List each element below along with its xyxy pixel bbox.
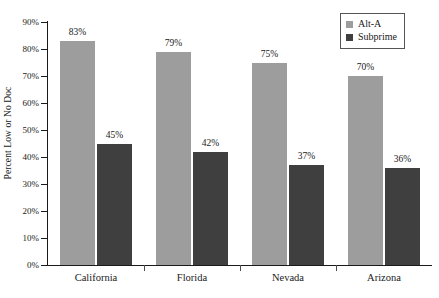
y-axis-tick-mark bbox=[41, 238, 48, 239]
bar-value-label: 36% bbox=[385, 154, 420, 164]
legend-swatch-icon-subprime bbox=[346, 34, 353, 41]
x-axis-category-label: Nevada bbox=[240, 272, 336, 283]
x-axis-category-label: Arizona bbox=[336, 272, 432, 283]
bar-california-alt-a bbox=[60, 41, 95, 265]
bar-nevada-subprime bbox=[289, 165, 324, 265]
legend-item-alt-a: Alt-A bbox=[346, 18, 397, 30]
bar-value-label: 45% bbox=[97, 130, 132, 140]
x-axis-category-label: Florida bbox=[144, 272, 240, 283]
bar-chart: Percent Low or No Doc 90%80%70%60%50%40%… bbox=[0, 0, 439, 298]
bar-value-label: 79% bbox=[156, 38, 191, 48]
y-axis-title-text: Percent Low or No Doc bbox=[3, 86, 13, 179]
bar-value-label: 37% bbox=[289, 151, 324, 161]
chart-legend: Alt-A Subprime bbox=[340, 13, 405, 49]
bar-arizona-alt-a bbox=[348, 76, 383, 265]
legend-label-alt-a: Alt-A bbox=[358, 18, 381, 30]
plot-area: 83%45%79%42%75%37%70%36% bbox=[48, 22, 432, 265]
y-axis-tick-mark bbox=[41, 184, 48, 185]
bar-value-label: 83% bbox=[60, 27, 95, 37]
y-axis-tick-mark bbox=[41, 211, 48, 212]
bar-california-subprime bbox=[97, 144, 132, 266]
bar-value-label: 70% bbox=[348, 62, 383, 72]
y-axis-tick-mark bbox=[41, 22, 48, 23]
bar-florida-subprime bbox=[193, 152, 228, 265]
bar-florida-alt-a bbox=[156, 52, 191, 265]
bar-value-label: 75% bbox=[252, 49, 287, 59]
legend-label-subprime: Subprime bbox=[358, 31, 397, 43]
y-axis-tick-mark bbox=[41, 49, 48, 50]
y-axis-tick-mark bbox=[41, 103, 48, 104]
legend-swatch-icon-alt-a bbox=[346, 21, 353, 28]
legend-item-subprime: Subprime bbox=[346, 31, 397, 43]
y-axis-tick-mark bbox=[41, 157, 48, 158]
y-axis-title: Percent Low or No Doc bbox=[0, 0, 16, 265]
y-axis-tick-mark bbox=[41, 265, 48, 266]
x-axis-tick-mark bbox=[144, 265, 145, 271]
y-axis-tick-mark bbox=[41, 76, 48, 77]
bar-nevada-alt-a bbox=[252, 63, 287, 266]
x-axis-tick-mark bbox=[240, 265, 241, 271]
x-axis-tick-mark bbox=[336, 265, 337, 271]
bar-arizona-subprime bbox=[385, 168, 420, 265]
bar-value-label: 42% bbox=[193, 138, 228, 148]
y-axis-tick-mark bbox=[41, 130, 48, 131]
x-axis-category-label: California bbox=[48, 272, 144, 283]
